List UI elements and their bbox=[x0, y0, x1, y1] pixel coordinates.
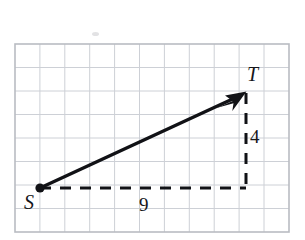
point-label-s: S bbox=[24, 192, 34, 212]
start-point-dot bbox=[35, 183, 44, 192]
vector-diagram: S T 9 4 bbox=[0, 0, 305, 240]
point-label-t: T bbox=[247, 64, 258, 84]
vertical-leg-label: 4 bbox=[250, 127, 260, 146]
diagram-canvas bbox=[0, 0, 305, 240]
horizontal-leg-label: 9 bbox=[139, 195, 149, 214]
